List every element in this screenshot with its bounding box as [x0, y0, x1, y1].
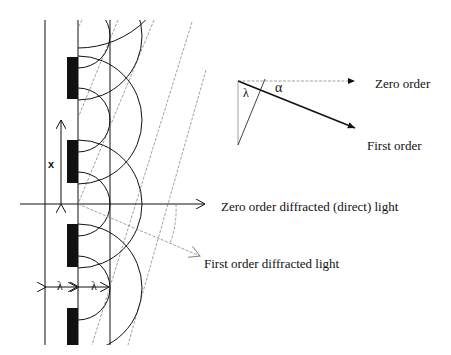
grating-slab: [67, 224, 78, 267]
inset-angle-diagram: λ α: [238, 79, 355, 145]
diffraction-diagram: x λ λ λ α Zero order First order Zero or…: [0, 0, 451, 355]
grating-slab: [67, 308, 78, 345]
huygens-wavelets: [0, 0, 174, 352]
zero-order-direct-label: Zero order diffracted (direct) light: [221, 199, 399, 214]
first-order-diffracted-label: First order diffracted light: [204, 256, 340, 271]
lambda-left-label: λ: [57, 279, 63, 293]
grating-slab: [67, 140, 78, 183]
grating-slab: [67, 57, 78, 99]
inset-first-order-arrow: [238, 81, 355, 128]
diffraction-angle-arc: [170, 204, 176, 243]
spacing-x-label: x: [48, 158, 55, 170]
inset-lambda-label: λ: [243, 86, 249, 100]
inset-alpha-label: α: [275, 80, 283, 95]
inset-first-order-label: First order: [367, 138, 422, 153]
first-order-wavefronts: [78, 20, 206, 345]
grating-slabs: [67, 57, 78, 345]
lambda-right-label: λ: [91, 279, 97, 293]
inset-zero-order-label: Zero order: [375, 76, 431, 91]
